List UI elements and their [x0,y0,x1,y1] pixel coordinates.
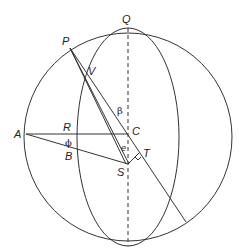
label-V: V [88,65,97,77]
label-B: B [65,150,72,162]
label-beta: β [117,105,123,116]
label-e: e [121,143,126,153]
label-Q: Q [122,13,131,25]
label-C: C [132,125,140,137]
label-T: T [143,147,151,159]
sphere-diagram: Q P V β A R C ϕ e T B S [0,0,243,248]
label-R: R [63,121,71,133]
label-phi: ϕ [65,137,72,148]
label-S: S [117,166,125,178]
right-angle-mark [135,157,141,160]
label-P: P [62,35,70,47]
label-A: A [13,128,21,140]
line-ST [128,153,139,164]
